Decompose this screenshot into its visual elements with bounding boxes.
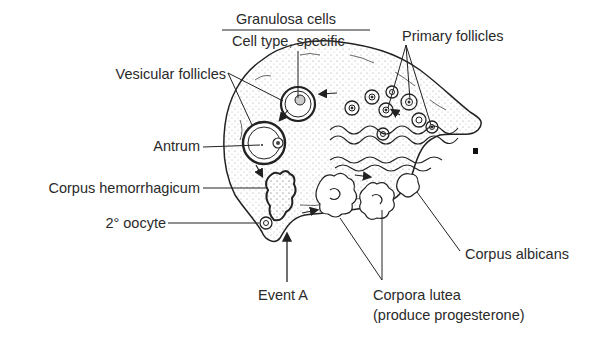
antrum-label: Antrum bbox=[100, 138, 200, 155]
corpora-lutea-label: Corpora lutea bbox=[373, 287, 461, 304]
ovary-diagram: Granulosa cells Cell type, specific Prim… bbox=[0, 0, 609, 344]
hilum-mark bbox=[473, 148, 478, 154]
secondary-oocyte-label: 2° oocyte bbox=[70, 215, 166, 232]
vesicular-follicles-label: Vesicular follicles bbox=[48, 66, 226, 83]
granulosa-cells-label: Granulosa cells bbox=[236, 11, 336, 28]
secondary-oocyte-shape bbox=[260, 217, 272, 229]
corpus-albicans-label: Corpus albicans bbox=[465, 246, 569, 263]
corpus-albicans-shape bbox=[397, 174, 420, 197]
cell-type-label: Cell type, specific bbox=[232, 33, 345, 50]
vesicular-follicle-antrum bbox=[243, 122, 285, 164]
corpus-hemorrhagicum-label: Corpus hemorrhagicum bbox=[10, 180, 200, 197]
corpora-lutea-note: (produce progesterone) bbox=[373, 307, 525, 324]
primary-follicles-label: Primary follicles bbox=[402, 28, 504, 45]
event-a-label: Event A bbox=[258, 287, 308, 304]
